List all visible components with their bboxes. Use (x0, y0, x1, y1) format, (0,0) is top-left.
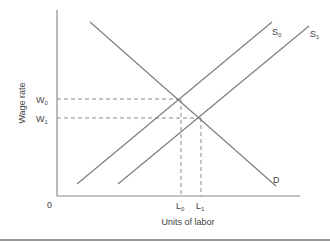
s0-label: S0 (272, 27, 282, 38)
y-axis-title: Wage rate (17, 82, 27, 123)
s1-label: S1 (310, 29, 320, 40)
w0-label: W0 (36, 95, 49, 106)
l1-label: L1 (196, 201, 205, 212)
demand-curve (90, 22, 276, 186)
origin-label: 0 (47, 200, 52, 210)
supply-curve-s0 (77, 22, 272, 184)
d-label: D (273, 175, 280, 185)
x-axis-title: Units of labor (161, 217, 214, 227)
supply-curve-s1 (118, 26, 309, 184)
w1-label: W1 (36, 114, 49, 125)
l0-label: L0 (176, 201, 185, 212)
labor-market-diagram: S0 S1 D W0 W1 L0 L1 0 Units of labor Wag… (0, 0, 330, 242)
